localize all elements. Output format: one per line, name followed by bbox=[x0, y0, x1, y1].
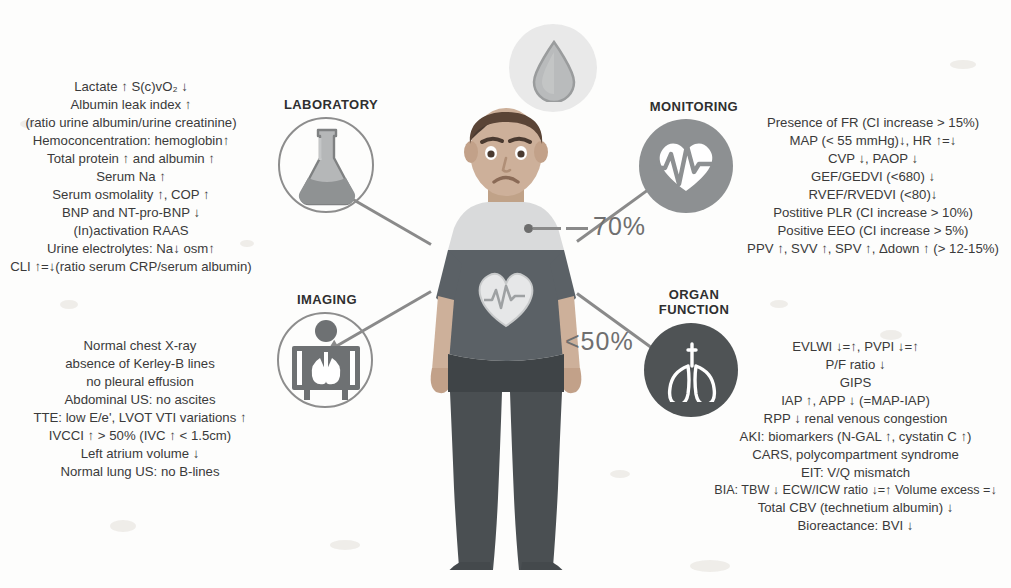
organ-function-line: RPP ↓ renal venous congestion bbox=[700, 410, 1011, 428]
laboratory-line: (In)activation RAAS bbox=[0, 222, 262, 240]
imaging-line: Abdominal US: no ascites bbox=[10, 391, 270, 409]
organ-function-line: AKI: biomarkers (N-GAL ↑, cystatin C ↑) bbox=[700, 428, 1011, 446]
monitoring-text: Presence of FR (CI increase > 15%) MAP (… bbox=[735, 114, 1011, 258]
percent-label-lower: <50% bbox=[565, 327, 634, 356]
laboratory-line: CLI ↑=↓(ratio serum CRP/serum albumin) bbox=[0, 258, 262, 276]
paper-speck bbox=[330, 540, 360, 550]
percent-leader-line-upper bbox=[533, 227, 561, 230]
laboratory-line: Total protein ↑ and albumin ↑ bbox=[0, 150, 262, 168]
paper-speck bbox=[770, 300, 788, 308]
organ-function-header-line2: FUNCTION bbox=[628, 303, 760, 318]
imaging-line: TTE: low E/e', LVOT VTI variations ↑ bbox=[10, 409, 270, 427]
heart-anchor-dot bbox=[524, 224, 533, 233]
organ-function-line: Bioreactance: BVI ↓ bbox=[700, 517, 1011, 535]
monitoring-line: RVEF/RVEDVI (<80)↓ bbox=[735, 186, 1011, 204]
laboratory-line: BNP and NT-pro-BNP ↓ bbox=[0, 204, 262, 222]
organ-function-header: ORGAN FUNCTION bbox=[628, 288, 760, 318]
organ-function-line: EIT: V/Q mismatch bbox=[700, 464, 1011, 482]
organ-function-line: Total CBV (technetium albumin) ↓ bbox=[700, 499, 1011, 517]
organ-function-line: GIPS bbox=[700, 374, 1011, 392]
monitoring-line: Postitive PLR (CI increase > 10%) bbox=[735, 204, 1011, 222]
percent-leader-line-upper-2 bbox=[566, 227, 588, 230]
imaging-header: IMAGING bbox=[272, 293, 382, 308]
monitoring-line: MAP (< 55 mmHg)↓, HR ↑=↓ bbox=[735, 132, 1011, 150]
monitoring-header: MONITORING bbox=[629, 100, 759, 115]
organ-function-line: BIA: TBW ↓ ECW/ICW ratio ↓=↑ Volume exce… bbox=[700, 482, 1011, 499]
percent-label-upper: 70% bbox=[593, 212, 646, 241]
imaging-line: Left atrium volume ↓ bbox=[10, 445, 270, 463]
laboratory-line: Hemoconcentration: hemoglobin↑ bbox=[0, 132, 262, 150]
imaging-line: no pleural effusion bbox=[10, 373, 270, 391]
organ-function-header-line1: ORGAN bbox=[628, 288, 760, 303]
imaging-line: IVCCI ↑ > 50% (IVC ↑ < 1.5cm) bbox=[10, 427, 270, 445]
organ-function-line: CARS, polycompartment syndrome bbox=[700, 446, 1011, 464]
laboratory-line: (ratio urine albumin/urine creatinine) bbox=[0, 114, 262, 132]
laboratory-header: LABORATORY bbox=[271, 98, 391, 113]
imaging-line: Normal lung US: no B-lines bbox=[10, 463, 270, 481]
water-droplet-icon bbox=[530, 40, 578, 102]
heart-monitor-icon bbox=[653, 137, 719, 195]
imaging-line: Normal chest X-ray bbox=[10, 337, 270, 355]
imaging-text: Normal chest X-ray absence of Kerley-B l… bbox=[10, 337, 270, 481]
organ-function-line: P/F ratio ↓ bbox=[700, 356, 1011, 374]
organ-function-line: EVLWI ↓=↑, PVPI ↓=↑ bbox=[700, 338, 1011, 356]
xray-viewer-icon bbox=[286, 318, 366, 404]
laboratory-line: Serum Na ↑ bbox=[0, 168, 262, 186]
monitoring-line: GEF/GEDVI (<680) ↓ bbox=[735, 168, 1011, 186]
laboratory-text: Lactate ↑ S(c)vO₂ ↓ Albumin leak index ↑… bbox=[0, 78, 262, 275]
laboratory-line: Serum osmolality ↑, COP ↑ bbox=[0, 186, 262, 204]
monitoring-line: Presence of FR (CI increase > 15%) bbox=[735, 114, 1011, 132]
laboratory-line: Urine electrolytes: Na↓ osm↑ bbox=[0, 240, 262, 258]
paper-speck bbox=[60, 300, 78, 309]
monitoring-line: CVP ↓, PAOP ↓ bbox=[735, 150, 1011, 168]
organ-function-text: EVLWI ↓=↑, PVPI ↓=↑ P/F ratio ↓ GIPS IAP… bbox=[700, 338, 1011, 535]
infographic-canvas: 70% <50% LABORATORY Lactate ↑ S(c)vO₂ ↓ … bbox=[0, 0, 1011, 588]
flask-icon bbox=[292, 126, 362, 208]
organ-function-line: IAP ↑, APP ↓ (=MAP-IAP) bbox=[700, 392, 1011, 410]
paper-speck bbox=[690, 560, 730, 572]
monitoring-line: Positive EEO (CI increase > 5%) bbox=[735, 222, 1011, 240]
paper-speck bbox=[950, 60, 976, 69]
paper-speck bbox=[110, 520, 136, 532]
imaging-line: absence of Kerley-B lines bbox=[10, 355, 270, 373]
laboratory-line: Lactate ↑ S(c)vO₂ ↓ bbox=[0, 78, 262, 96]
laboratory-line: Albumin leak index ↑ bbox=[0, 96, 262, 114]
monitoring-line: PPV ↑, SVV ↑, SPV ↑, Δdown ↑ (> 12-15%) bbox=[735, 240, 1011, 258]
